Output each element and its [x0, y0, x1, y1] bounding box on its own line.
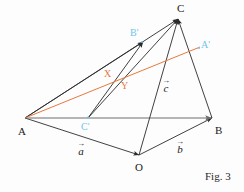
point-Cprime-marker — [87, 116, 89, 118]
vector-label-a: → a — [77, 142, 85, 157]
point-Aprime-marker — [198, 47, 200, 49]
point-label-B-prime: B' — [130, 28, 138, 38]
segment-B-C — [178, 19, 212, 118]
segment-Cprime-Bprime — [88, 42, 143, 118]
vertex-label-B: B — [215, 125, 222, 136]
vertex-label-A: A — [18, 126, 26, 137]
vector-label-b: → b — [176, 140, 184, 155]
point-Bprime-marker — [141, 41, 143, 43]
point-label-C-prime: C' — [81, 122, 89, 132]
geometry-diagram — [0, 0, 244, 192]
point-label-A-prime: A' — [201, 40, 210, 50]
point-label-Y: Y — [121, 81, 128, 91]
vector-label-c: → c — [162, 79, 170, 94]
vertex-label-C: C — [177, 3, 184, 14]
vertex-label-O: O — [135, 162, 143, 173]
vector-b-glyph: b — [176, 144, 184, 155]
figure-caption: Fig. 3 — [205, 170, 231, 182]
segment-O-C — [139, 19, 178, 155]
vector-a-glyph: a — [77, 146, 85, 157]
segment-A-Aprime-orange — [25, 47, 200, 118]
figure-container: C A B O B' A' C' X Y → a → b → c Fig. 3 — [0, 0, 244, 192]
point-label-X: X — [104, 69, 111, 79]
